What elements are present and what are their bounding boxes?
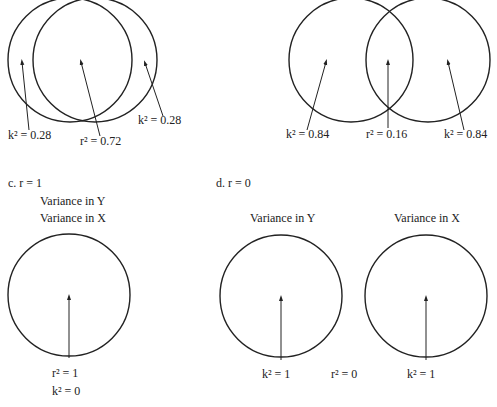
panel-a-center-arrow	[81, 62, 100, 136]
panel-b-right-arrow	[448, 62, 464, 130]
panel-d-r2-label: r² = 0	[331, 367, 357, 381]
panel-c-r2-label: r² = 1	[52, 366, 78, 380]
panel-c-title: c. r = 1	[8, 176, 42, 191]
panel-a-right-k2-label: k² = 0.28	[138, 113, 181, 127]
panel-d-variance-x-label: Variance in X	[394, 211, 460, 225]
panel-c-variance-y-label: Variance in Y	[40, 194, 106, 208]
panel-c-k2-label: k² = 0	[52, 384, 80, 398]
panel-b-r2-label: r² = 0.16	[366, 127, 407, 141]
panel-d-left-k2-label: k² = 1	[262, 367, 290, 381]
panel-a-left-arrow	[22, 62, 29, 130]
panel-c-variance-x-label: Variance in X	[40, 211, 106, 225]
panel-a-circle-x	[33, 0, 157, 122]
panel-d-title: d. r = 0	[216, 176, 251, 191]
panel-b-left-k2-label: k² = 0.84	[286, 127, 329, 141]
panel-d-variance-y-label: Variance in Y	[250, 211, 316, 225]
panel-b-circle-x	[366, 0, 490, 122]
panel-a-left-k2-label: k² = 0.28	[8, 128, 51, 142]
panel-b-circle-y	[289, 0, 413, 122]
panel-b-left-arrow	[307, 62, 326, 130]
panel-a-right-arrow	[145, 63, 163, 116]
panel-d-right-k2-label: k² = 1	[407, 367, 435, 381]
panel-a-r2-label: r² = 0.72	[80, 134, 121, 148]
panel-b-right-k2-label: k² = 0.84	[444, 127, 487, 141]
